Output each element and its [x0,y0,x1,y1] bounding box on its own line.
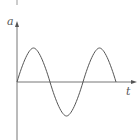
x-axis-label: t [126,85,131,98]
y-axis-label: a [7,15,14,28]
x-axis-arrow-icon [131,80,137,84]
sine-wave-diagram: a t [0,0,140,140]
y-axis-arrow-icon [15,21,19,27]
